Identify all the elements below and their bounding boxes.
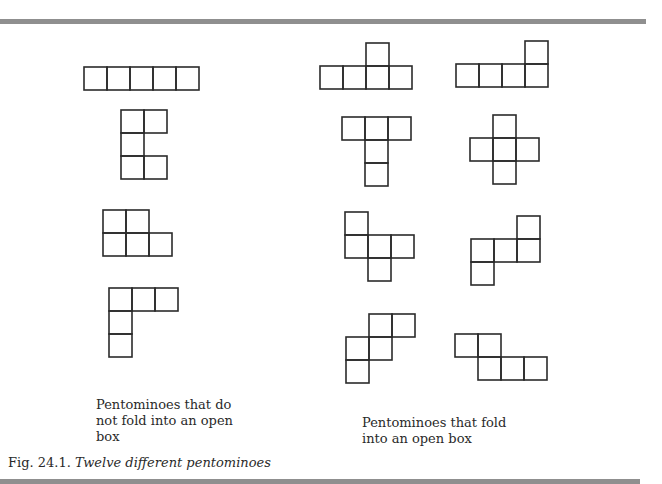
figure-title: Twelve different pentominoes: [75, 455, 271, 470]
label-line: into an open box: [362, 431, 512, 447]
pentomino-cell: [493, 115, 516, 138]
pentomino-cell: [493, 161, 516, 184]
pentomino-cell: [392, 314, 415, 337]
pentomino-cell: [176, 67, 199, 90]
pentomino-cell: [524, 357, 547, 380]
pentomino-cell: [121, 133, 144, 156]
pentomino-cell: [365, 140, 388, 163]
pentomino-cell: [470, 138, 493, 161]
pentomino-y: [320, 43, 412, 89]
pentomino-cell: [144, 156, 167, 179]
pentomino-cell: [155, 288, 178, 311]
pentomino-cell: [478, 357, 501, 380]
pentomino-cell: [103, 210, 126, 233]
pentomino-w: [346, 314, 415, 383]
pentomino-cell: [366, 43, 389, 66]
pentomino-cell: [479, 64, 502, 87]
pentomino-cell: [455, 334, 478, 357]
pentomino-x: [470, 115, 539, 184]
pentomino-cell: [121, 110, 144, 133]
pentomino-cell: [126, 210, 149, 233]
label-line: Pentominoes that do: [96, 397, 246, 413]
pentomino-cell: [389, 66, 412, 89]
pentomino-l: [456, 41, 548, 87]
pentomino-cell: [103, 233, 126, 256]
pentomino-shapes: [84, 41, 548, 383]
pentomino-cell: [478, 334, 501, 357]
figure-number: Fig. 24.1.: [8, 455, 71, 470]
pentomino-cell: [107, 67, 130, 90]
pentomino-cell: [366, 66, 389, 89]
figure-caption: Fig. 24.1. Twelve different pentominoes: [8, 455, 271, 470]
pentomino-t: [342, 117, 411, 186]
pentomino-cell: [109, 334, 132, 357]
pentomino-cell: [493, 138, 516, 161]
pentomino-cell: [121, 156, 144, 179]
pentomino-cell: [320, 66, 343, 89]
pentomino-cell: [132, 288, 155, 311]
pentomino-i: [84, 67, 199, 90]
label-non-folding: Pentominoes that do not fold into an ope…: [96, 397, 246, 445]
pentomino-cell: [126, 233, 149, 256]
label-folding: Pentominoes that fold into an open box: [362, 415, 512, 447]
pentomino-cell: [501, 357, 524, 380]
pentomino-cell: [109, 288, 132, 311]
pentomino-cell: [365, 117, 388, 140]
pentomino-cell: [109, 311, 132, 334]
pentomino-cell: [494, 239, 517, 262]
pentomino-cell: [517, 239, 540, 262]
pentomino-cell: [368, 235, 391, 258]
pentomino-cell: [84, 67, 107, 90]
pentomino-n: [455, 334, 547, 380]
pentomino-cell: [369, 337, 392, 360]
pentomino-cell: [343, 66, 366, 89]
pentomino-v: [109, 288, 178, 357]
pentomino-cell: [516, 138, 539, 161]
label-line: box: [96, 429, 246, 445]
pentomino-cell: [391, 235, 414, 258]
pentomino-cell: [369, 314, 392, 337]
pentomino-cell: [346, 337, 369, 360]
pentomino-cell: [525, 41, 548, 64]
pentomino-cell: [153, 67, 176, 90]
pentomino-u: [121, 110, 167, 179]
pentomino-z: [471, 216, 540, 285]
pentomino-cell: [345, 212, 368, 235]
pentomino-cell: [345, 235, 368, 258]
pentomino-cell: [456, 64, 479, 87]
pentomino-cell: [144, 110, 167, 133]
label-line: Pentominoes that fold: [362, 415, 512, 431]
pentomino-cell: [388, 117, 411, 140]
pentomino-cell: [471, 239, 494, 262]
label-line: not fold into an open: [96, 413, 246, 429]
pentomino-f: [345, 212, 414, 281]
pentomino-cell: [525, 64, 548, 87]
pentomino-p: [103, 210, 172, 256]
pentomino-cell: [342, 117, 365, 140]
pentomino-cell: [368, 258, 391, 281]
pentomino-cell: [149, 233, 172, 256]
pentomino-cell: [365, 163, 388, 186]
pentomino-cell: [346, 360, 369, 383]
pentomino-cell: [130, 67, 153, 90]
bottom-rule: [0, 479, 640, 484]
pentomino-cell: [471, 262, 494, 285]
pentomino-cell: [502, 64, 525, 87]
pentomino-cell: [517, 216, 540, 239]
